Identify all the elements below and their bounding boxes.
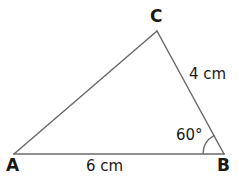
side-length-label-cb: 4 cm: [189, 67, 226, 82]
angle-arc-b: [203, 136, 214, 154]
vertex-label-a: A: [6, 157, 19, 174]
side-ac-line: [14, 31, 157, 154]
side-length-label-ab: 6 cm: [86, 159, 123, 174]
vertex-label-b: B: [217, 157, 230, 174]
geometry-figure: A B C 6 cm 4 cm 60°: [0, 0, 239, 176]
triangle-drawing: [0, 0, 239, 176]
vertex-label-c: C: [150, 8, 162, 25]
angle-measure-label-b: 60°: [176, 128, 203, 143]
